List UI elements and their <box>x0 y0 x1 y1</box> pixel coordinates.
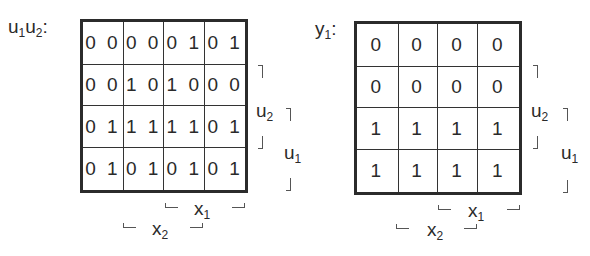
cell: 1 1 <box>123 106 164 148</box>
label-x2: x2 <box>427 220 443 242</box>
cell: 0 1 <box>82 106 124 148</box>
label-u2: u2 <box>256 101 273 123</box>
bracket-u2-top <box>258 65 263 78</box>
cell: 0 1 <box>82 148 124 192</box>
cell: 0 1 <box>205 148 247 192</box>
bracket-u1-bottom <box>286 178 291 191</box>
bracket-x1-left <box>165 203 178 208</box>
cell: 0 0 <box>82 21 124 65</box>
cell: 1 0 <box>164 64 205 106</box>
bracket-u2-bottom <box>533 136 538 149</box>
bracket-x1-right <box>507 205 520 210</box>
cell: 0 1 <box>164 148 205 192</box>
cell: 0 <box>356 23 399 67</box>
bracket-x2-right <box>464 224 477 229</box>
label-u1: u1 <box>284 143 301 165</box>
label-u2: u2 <box>531 101 548 123</box>
cell: 0 <box>478 23 521 67</box>
cell: 1 <box>356 150 399 194</box>
cell: 0 <box>438 23 478 67</box>
bracket-u1-top <box>286 108 291 121</box>
label-x2: x2 <box>152 219 168 241</box>
cell: 1 <box>398 150 438 194</box>
cell: 0 <box>398 66 438 108</box>
bracket-x2-left <box>396 224 409 229</box>
cell: 0 1 <box>205 21 247 65</box>
bracket-x1-right <box>232 203 245 208</box>
cell: 1 <box>398 108 438 150</box>
cell: 0 1 <box>123 148 164 192</box>
cell: 0 <box>478 66 521 108</box>
cell: 0 <box>356 66 399 108</box>
cell: 0 <box>438 66 478 108</box>
label-x1: x1 <box>194 199 210 221</box>
cell: 1 1 <box>164 106 205 148</box>
map-title-u1u2: u1u2: <box>8 17 48 39</box>
cell: 1 <box>478 108 521 150</box>
karnaugh-grid-u1u2: 0 0 0 0 0 1 0 1 0 0 1 0 1 0 0 0 0 1 1 1 … <box>80 19 248 193</box>
cell: 0 <box>398 23 438 67</box>
cell: 1 <box>356 108 399 150</box>
cell: 0 0 <box>82 64 124 106</box>
bracket-x1-left <box>438 205 451 210</box>
bracket-u1-bottom <box>563 180 568 193</box>
label-x1: x1 <box>468 201 484 223</box>
cell: 1 <box>438 150 478 194</box>
bracket-u1-top <box>563 108 568 121</box>
label-u1: u1 <box>561 143 578 165</box>
karnaugh-grid-y1: 0 0 0 0 0 0 0 0 1 1 1 1 1 1 1 1 <box>354 21 522 195</box>
bracket-u2-bottom <box>258 136 263 149</box>
bracket-u2-top <box>533 65 538 78</box>
cell: 1 <box>478 150 521 194</box>
bracket-x2-left <box>123 223 136 228</box>
cell: 0 0 <box>123 21 164 65</box>
cell: 1 0 <box>123 64 164 106</box>
cell: 0 1 <box>205 106 247 148</box>
cell: 0 0 <box>205 64 247 106</box>
cell: 1 <box>438 108 478 150</box>
map-title-y1: y1: <box>315 19 336 41</box>
cell: 0 1 <box>164 21 205 65</box>
bracket-x2-right <box>190 223 203 228</box>
